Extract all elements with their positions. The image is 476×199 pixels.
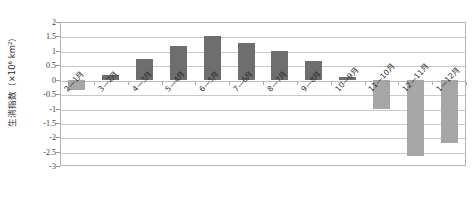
x-axis-labels: 2—1月3—2月4—3月5—4月6—5月7—6月8—7月9—8月10—9月11—…: [60, 0, 466, 199]
x-tick-label: 4—3月: [129, 68, 154, 94]
x-tick-label: 7—6月: [230, 68, 255, 94]
x-tick-label: 11—10月: [365, 60, 397, 93]
x-tick-label: 6—5月: [196, 68, 221, 94]
y-tick-label: -3: [30, 162, 56, 171]
y-tick-label: 0: [30, 75, 56, 84]
x-tick-label: 2—1月: [61, 68, 86, 94]
x-tick-label: 5—4月: [162, 68, 187, 94]
y-axis-title-text: 生消指数（×10⁶ km²）: [5, 33, 17, 128]
x-tick-label: 8—7月: [264, 68, 289, 94]
y-tick-label: -0.5: [30, 90, 56, 99]
y-tick-label: 1.5: [30, 32, 56, 41]
y-tick-label: -1.5: [30, 118, 56, 127]
y-tick-label: -2.5: [30, 147, 56, 156]
y-tick-label: -2: [30, 133, 56, 142]
y-tick-label: -1: [30, 104, 56, 113]
x-tick-label: 12—11月: [399, 60, 431, 93]
y-tick-label: 0.5: [30, 61, 56, 70]
bar-chart: 生消指数（×10⁶ km²） 21.510.50-0.5-1-1.5-2-2.5…: [0, 0, 476, 199]
x-tick-label: 9—8月: [298, 68, 323, 94]
x-tick-label: 10—9月: [332, 64, 361, 94]
x-tick-label: 1—12月: [433, 64, 462, 94]
y-tick-label: 2: [30, 17, 56, 26]
x-tick-label: 3—2月: [95, 68, 120, 94]
y-tick-label: 1: [30, 46, 56, 55]
x-tick-mark: [466, 82, 467, 85]
y-axis-title: 生消指数（×10⁶ km²）: [0, 0, 22, 160]
